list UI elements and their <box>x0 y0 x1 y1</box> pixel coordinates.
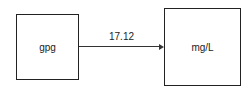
target-node-mgl: mg/L <box>164 8 241 86</box>
conversion-factor-label: 17.12 <box>79 31 164 42</box>
source-node-label: gpg <box>39 42 56 53</box>
target-node-label: mg/L <box>191 42 213 53</box>
arrow-line <box>79 46 161 47</box>
source-node-gpg: gpg <box>16 14 79 80</box>
